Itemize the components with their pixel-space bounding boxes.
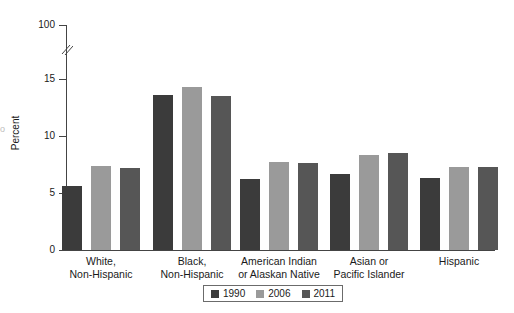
bar-2011 (478, 167, 498, 250)
legend-item-2011[interactable]: 2011 (302, 289, 336, 299)
x-axis-label: Hispanic (389, 255, 514, 268)
bar-group (153, 25, 231, 250)
x-axis-line (66, 250, 495, 251)
bar-group (240, 25, 318, 250)
bar-2006 (182, 87, 202, 250)
legend-swatch-icon (211, 290, 219, 298)
plot-area (66, 25, 495, 250)
y-tick-label-wrap: 10 (10, 131, 55, 141)
y-tick-label-wrap: 100 (10, 20, 55, 30)
bar-1990 (153, 95, 173, 250)
bar-1990 (420, 178, 440, 250)
legend-item-1990[interactable]: 1990 (211, 289, 245, 299)
y-tick-label-100: 100 (15, 20, 55, 30)
legend-label: 2011 (314, 289, 336, 299)
bar-2011 (298, 163, 318, 250)
legend-label: 1990 (223, 289, 245, 299)
legend-swatch-icon (302, 290, 310, 298)
y-tick-label-10: 10 (15, 131, 55, 141)
bar-2006 (269, 162, 289, 250)
bar-1990 (240, 179, 260, 250)
bar-1990 (62, 186, 82, 250)
bar-2011 (388, 153, 408, 250)
bar-2011 (211, 96, 231, 250)
bar-group (62, 25, 140, 250)
y-tick-0 (59, 250, 66, 251)
bar-1990 (330, 174, 350, 250)
bar-2006 (449, 167, 469, 250)
x-axis-label-line: Hispanic (389, 255, 514, 268)
y-tick-label-5: 5 (15, 188, 55, 198)
bar-2011 (120, 168, 140, 250)
bar-group (330, 25, 408, 250)
bar-chart: o Percent 051015100 White,Non-HispanicBl… (0, 0, 514, 313)
edge-artifact-glyph: o (0, 125, 5, 134)
bar-2006 (359, 155, 379, 250)
legend: 199020062011 (203, 285, 343, 302)
y-tick-label-wrap: 5 (10, 188, 55, 198)
bar-2006 (91, 166, 111, 250)
y-tick-label-wrap: 15 (10, 74, 55, 84)
legend-swatch-icon (256, 290, 264, 298)
legend-label: 2006 (268, 289, 290, 299)
legend-item-2006[interactable]: 2006 (256, 289, 290, 299)
x-axis-label-line: Pacific Islander (299, 268, 439, 281)
y-tick-label-15: 15 (15, 74, 55, 84)
y-tick-label-0: 0 (15, 245, 55, 255)
y-tick-label-wrap: 0 (10, 245, 55, 255)
bar-group (420, 25, 498, 250)
